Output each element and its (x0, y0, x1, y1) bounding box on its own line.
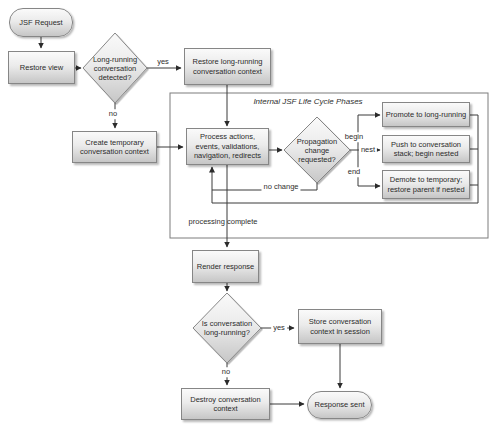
node-create-temporary: Create temporary conversation context (72, 131, 157, 163)
node-render-response: Render response (192, 250, 259, 283)
node-store-context: Store conversation context in session (298, 309, 382, 344)
decision-long-running-label: Long-running conversation detected? (86, 46, 144, 90)
edge-label-processing-complete: processing complete (189, 218, 258, 226)
edge-label-yes-top: yes (157, 58, 169, 66)
node-restore-long-running: Restore long-running conversation contex… (184, 48, 271, 85)
node-destroy-context: Destroy conversation context (181, 388, 270, 420)
node-demote: Demote to temporary; restore parent if n… (382, 170, 470, 199)
edge-label-yes-bottom: yes (271, 323, 287, 333)
node-promote: Promote to long-running (382, 102, 470, 127)
flowchart-canvas: Internal JSF Life Cycle Phases JSF Reque… (0, 0, 495, 433)
node-restore-view: Restore view (8, 51, 75, 84)
decision-is-long-running-label: Is conversation long-running? (195, 311, 259, 345)
node-push: Push to conversation stack; begin nested (382, 135, 470, 163)
lifecycle-frame-title: Internal JSF Life Cycle Phases (253, 97, 362, 106)
edge-label-no-bottom: no (220, 367, 232, 377)
node-jsf-request: JSF Request (9, 8, 73, 37)
edge-label-nest: nest (359, 145, 377, 155)
edge-label-no-top: no (107, 109, 119, 119)
node-response-sent: Response sent (307, 391, 372, 419)
edge-label-begin: begin (343, 132, 365, 142)
edge-label-no-change: no change (261, 182, 300, 192)
edge-label-end: end (346, 167, 363, 177)
decision-propagation-label: Propagation change requested? (288, 128, 346, 172)
node-process-actions: Process actions, events, validations, na… (186, 128, 269, 165)
